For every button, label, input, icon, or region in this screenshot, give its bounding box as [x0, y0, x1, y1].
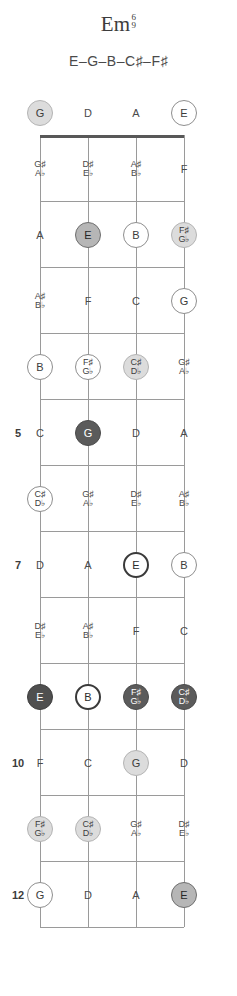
note-label-enharmonic: D♭	[35, 499, 46, 509]
fret-line-6	[40, 531, 184, 532]
note-label-enharmonic: B♭	[83, 631, 93, 641]
fret-5-string-2-note[interactable]: G	[75, 420, 101, 446]
fret-line-11	[40, 861, 184, 862]
fret-line-4	[40, 399, 184, 400]
fret-12-string-2-note[interactable]: D	[75, 882, 101, 908]
fret-line-2	[40, 267, 184, 268]
fret-2-string-1-note[interactable]: A	[27, 222, 53, 248]
note-label-enharmonic: E♭	[83, 169, 93, 179]
fret-3-string-1-note[interactable]: A♯B♭	[27, 288, 53, 314]
note-label-enharmonic: A♭	[83, 499, 93, 509]
fret-number-5: 5	[15, 427, 21, 439]
note-label-enharmonic: B♭	[179, 499, 189, 509]
note-label-enharmonic: E♭	[179, 829, 189, 839]
fret-3-string-4-note[interactable]: G	[171, 288, 197, 314]
fret-11-string-2-note[interactable]: C♯D♭	[75, 816, 101, 842]
note-label: C	[36, 428, 44, 438]
fret-6-string-1-note[interactable]: C♯D♭	[27, 486, 53, 512]
fret-number-10: 10	[12, 757, 24, 769]
fret-1-string-1-note[interactable]: G♯A♭	[27, 156, 53, 182]
fret-4-string-1-note[interactable]: B	[27, 354, 53, 380]
fret-line-12	[40, 927, 184, 928]
fret-7-string-2-note[interactable]: A	[75, 552, 101, 578]
note-label-enharmonic: B♭	[35, 301, 45, 311]
fret-line-5	[40, 465, 184, 466]
fret-2-string-3-note[interactable]: B	[123, 222, 149, 248]
note-label: B	[36, 362, 43, 372]
note-label-enharmonic: G♭	[130, 697, 141, 707]
fret-5-string-1-note[interactable]: C	[27, 420, 53, 446]
fret-9-string-4-note[interactable]: C♯D♭	[171, 684, 197, 710]
note-label: D	[180, 758, 188, 768]
fret-11-string-3-note[interactable]: G♯A♭	[123, 816, 149, 842]
fret-6-string-4-note[interactable]: A♯B♭	[171, 486, 197, 512]
note-label-enharmonic: B♭	[131, 169, 141, 179]
fret-9-string-3-note[interactable]: F♯G♭	[123, 684, 149, 710]
fret-10-string-2-note[interactable]: C	[75, 750, 101, 776]
fret-8-string-1-note[interactable]: D♯E♭	[27, 618, 53, 644]
open-string-note-3[interactable]: A	[123, 100, 149, 126]
fret-7-string-4-note[interactable]: B	[171, 552, 197, 578]
note-label: D	[84, 890, 92, 900]
note-label-enharmonic: A♭	[179, 367, 189, 377]
note-label: E	[180, 108, 187, 118]
fret-10-string-4-note[interactable]: D	[171, 750, 197, 776]
note-label: F	[85, 296, 92, 306]
fret-12-string-3-note[interactable]: A	[123, 882, 149, 908]
fret-4-string-4-note[interactable]: G♯A♭	[171, 354, 197, 380]
fret-2-string-2-note[interactable]: E	[75, 222, 101, 248]
fret-12-string-1-note[interactable]: G	[27, 882, 53, 908]
open-string-note-2[interactable]: D	[75, 100, 101, 126]
fret-7-string-1-note[interactable]: D	[27, 552, 53, 578]
fret-line-1	[40, 201, 184, 202]
note-label: E	[84, 230, 91, 240]
fret-6-string-3-note[interactable]: D♯E♭	[123, 486, 149, 512]
fret-11-string-4-note[interactable]: D♯E♭	[171, 816, 197, 842]
note-label: D	[84, 108, 92, 118]
nut	[40, 135, 184, 138]
note-label: A	[132, 108, 139, 118]
fret-number-7: 7	[15, 559, 21, 571]
fret-line-9	[40, 729, 184, 730]
fret-1-string-4-note[interactable]: F	[171, 156, 197, 182]
fret-9-string-2-note[interactable]: B	[75, 684, 101, 710]
fret-4-string-2-note[interactable]: F♯G♭	[75, 354, 101, 380]
note-label: G	[84, 428, 93, 438]
fret-8-string-3-note[interactable]: F	[123, 618, 149, 644]
note-label: G	[36, 108, 45, 118]
note-label: G	[180, 296, 189, 306]
fret-line-3	[40, 333, 184, 334]
fret-3-string-2-note[interactable]: F	[75, 288, 101, 314]
fret-1-string-2-note[interactable]: D♯E♭	[75, 156, 101, 182]
note-label: B	[180, 560, 187, 570]
fret-8-string-4-note[interactable]: C	[171, 618, 197, 644]
fret-line-8	[40, 663, 184, 664]
fret-7-string-3-note[interactable]: E	[123, 552, 149, 578]
note-label: G	[132, 758, 141, 768]
note-label-enharmonic: D♭	[83, 829, 94, 839]
fret-9-string-1-note[interactable]: E	[27, 684, 53, 710]
fret-10-string-3-note[interactable]: G	[123, 750, 149, 776]
fret-5-string-3-note[interactable]: D	[123, 420, 149, 446]
note-label: E	[132, 560, 139, 570]
open-string-note-1[interactable]: G	[27, 100, 53, 126]
note-label: D	[132, 428, 140, 438]
fret-line-7	[40, 597, 184, 598]
note-label: F	[133, 626, 140, 636]
fret-10-string-1-note[interactable]: F	[27, 750, 53, 776]
note-label-enharmonic: D♭	[179, 697, 190, 707]
fret-1-string-3-note[interactable]: A♯B♭	[123, 156, 149, 182]
fret-3-string-3-note[interactable]: C	[123, 288, 149, 314]
fret-11-string-1-note[interactable]: F♯G♭	[27, 816, 53, 842]
fret-2-string-4-note[interactable]: F♯G♭	[171, 222, 197, 248]
fret-6-string-2-note[interactable]: G♯A♭	[75, 486, 101, 512]
fret-12-string-4-note[interactable]: E	[171, 882, 197, 908]
fret-8-string-2-note[interactable]: A♯B♭	[75, 618, 101, 644]
note-label: A	[36, 230, 43, 240]
fret-4-string-3-note[interactable]: C♯D♭	[123, 354, 149, 380]
fret-5-string-4-note[interactable]: A	[171, 420, 197, 446]
open-string-note-4[interactable]: E	[171, 100, 197, 126]
note-label-enharmonic: G♭	[34, 829, 45, 839]
fret-line-10	[40, 795, 184, 796]
note-label: A	[84, 560, 91, 570]
